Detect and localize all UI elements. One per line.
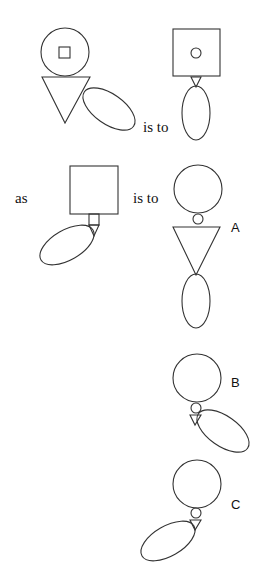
small-circle: [193, 214, 203, 224]
option-c[interactable]: C: [135, 460, 241, 569]
vertical-ellipse: [182, 86, 210, 140]
small-downward-triangle: [190, 520, 201, 530]
large-square: [173, 29, 220, 76]
inner-circle: [191, 48, 201, 58]
inner-square: [59, 47, 70, 58]
small-square: [89, 214, 99, 225]
figure-1: [41, 28, 142, 138]
option-a[interactable]: A: [173, 165, 240, 328]
tilted-ellipse: [135, 513, 202, 569]
tilted-ellipse: [76, 80, 142, 139]
small-downward-triangle: [190, 415, 201, 425]
vertical-ellipse: [182, 274, 210, 328]
figure-2: [173, 29, 220, 140]
analogy-puzzle: is to as is to A B C: [0, 0, 260, 580]
large-circle: [41, 28, 89, 76]
option-b[interactable]: B: [173, 354, 256, 460]
option-b-label[interactable]: B: [231, 375, 240, 390]
figure-3: [34, 166, 118, 273]
large-downward-triangle: [173, 227, 220, 275]
small-circle: [191, 403, 201, 413]
small-circle: [191, 508, 201, 518]
large-circle: [174, 165, 222, 213]
option-c-label[interactable]: C: [231, 497, 240, 512]
option-a-label[interactable]: A: [231, 220, 240, 235]
large-circle: [173, 354, 221, 402]
large-circle: [173, 460, 221, 508]
connector-is-to-1: is to: [143, 119, 168, 135]
connector-is-to-2: is to: [133, 190, 158, 206]
tilted-ellipse: [190, 402, 256, 461]
connector-as: as: [15, 190, 28, 206]
large-square: [70, 166, 118, 214]
